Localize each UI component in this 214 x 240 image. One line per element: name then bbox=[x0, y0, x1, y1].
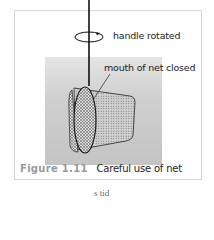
label-handle-rotated: handle rotated bbox=[113, 30, 180, 41]
figure-number: Figure 1.11 bbox=[20, 163, 88, 174]
net-mouth-ellipse bbox=[74, 87, 96, 153]
caption-text: Careful use of net bbox=[97, 163, 182, 174]
label-mouth-closed: mouth of net closed bbox=[104, 62, 195, 73]
page-text-bottom: s tid bbox=[94, 188, 109, 198]
figure-caption: Figure 1.11 Careful use of net bbox=[20, 163, 182, 174]
